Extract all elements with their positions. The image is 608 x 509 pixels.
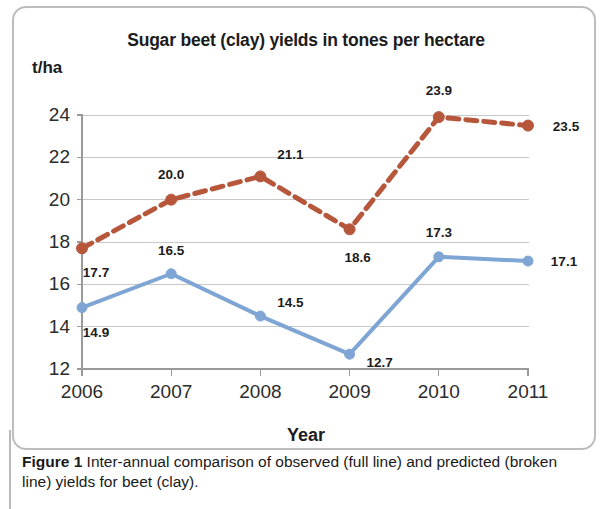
y-axis-tick-label: 22 bbox=[24, 146, 70, 168]
figure-root: Sugar beet (clay) yields in tones per he… bbox=[0, 0, 608, 509]
data-point-label-predicted: 21.1 bbox=[277, 147, 303, 162]
data-point-predicted bbox=[166, 194, 177, 205]
series-layer bbox=[77, 112, 534, 360]
data-point-label-observed: 17.3 bbox=[426, 224, 452, 239]
data-point-predicted bbox=[344, 224, 355, 235]
data-point-observed bbox=[523, 256, 533, 266]
data-point-label-observed: 16.5 bbox=[158, 242, 184, 257]
figure-caption-label: Figure 1 bbox=[22, 453, 82, 470]
data-point-label-predicted: 20.0 bbox=[158, 166, 184, 181]
data-point-predicted bbox=[255, 171, 266, 182]
data-point-label-predicted: 18.6 bbox=[344, 250, 370, 265]
plot-svg bbox=[82, 115, 529, 369]
chart-title: Sugar beet (clay) yields in tones per he… bbox=[14, 30, 598, 51]
plot-area: 12141618202224200620072008200920102011 1… bbox=[82, 115, 529, 369]
series-line-observed bbox=[82, 257, 528, 354]
data-point-label-predicted: 17.7 bbox=[83, 265, 109, 280]
figure-caption: Figure 1 Inter-annual comparison of obse… bbox=[22, 452, 588, 493]
chart-card: Sugar beet (clay) yields in tones per he… bbox=[12, 6, 596, 450]
data-point-predicted bbox=[523, 120, 534, 131]
x-axis-tick-label: 2006 bbox=[36, 381, 128, 403]
y-axis-tick-label: 20 bbox=[24, 189, 70, 211]
page-left-rule bbox=[9, 430, 11, 509]
data-point-observed bbox=[166, 269, 176, 279]
x-axis-tick-label: 2008 bbox=[214, 381, 306, 403]
data-point-observed bbox=[255, 311, 265, 321]
x-axis-tick-label: 2007 bbox=[125, 381, 217, 403]
y-axis-unit-label: t/ha bbox=[32, 58, 62, 78]
x-axis-title: Year bbox=[14, 425, 598, 446]
y-axis-tick-label: 18 bbox=[24, 231, 70, 253]
y-axis-tick-label: 14 bbox=[24, 316, 70, 338]
data-point-label-observed: 12.7 bbox=[366, 355, 392, 370]
data-point-predicted bbox=[77, 243, 88, 254]
y-axis-tick-label: 24 bbox=[24, 104, 70, 126]
y-axis-tick-label: 16 bbox=[24, 273, 70, 295]
gridlines bbox=[82, 115, 529, 369]
x-axis-tick-label: 2009 bbox=[304, 381, 396, 403]
x-axis-tick-label: 2010 bbox=[393, 381, 485, 403]
data-point-label-observed: 17.1 bbox=[551, 254, 577, 269]
series-line-predicted bbox=[82, 117, 528, 248]
x-axis-tick-label: 2011 bbox=[482, 381, 574, 403]
data-point-observed bbox=[345, 349, 355, 359]
data-point-label-predicted: 23.9 bbox=[426, 83, 452, 98]
data-point-label-predicted: 23.5 bbox=[553, 118, 579, 133]
data-point-label-observed: 14.5 bbox=[277, 295, 303, 310]
figure-caption-text: Inter-annual comparison of observed (ful… bbox=[22, 453, 557, 490]
data-point-observed bbox=[77, 303, 87, 313]
data-point-label-observed: 14.9 bbox=[83, 324, 109, 339]
data-point-observed bbox=[434, 252, 444, 262]
y-axis-tick-label: 12 bbox=[24, 358, 70, 380]
data-point-predicted bbox=[433, 112, 444, 123]
